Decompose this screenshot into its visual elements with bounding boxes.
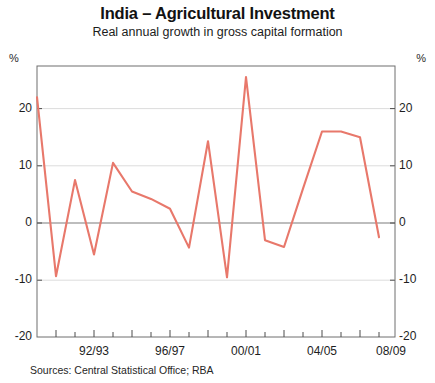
x-tick-label-92-93: 92/93 xyxy=(64,344,124,358)
y-tick-label-right-minus-20: -20 xyxy=(399,329,431,343)
x-tick-label-08-09: 08/09 xyxy=(361,344,421,358)
y-tick-label-20: 20 xyxy=(2,101,32,115)
x-tick-label-96-97: 96/97 xyxy=(140,344,200,358)
y-tick-label-right-0: 0 xyxy=(399,215,431,229)
x-tick-label-00-01: 00/01 xyxy=(216,344,276,358)
y-tick-label-right-minus-10: -10 xyxy=(399,272,431,286)
y-tick-label-right-20: 20 xyxy=(399,101,431,115)
chart-figure: India – Agricultural Investment Real ann… xyxy=(0,0,435,383)
y-tick-label-0: 0 xyxy=(2,215,32,229)
plot-area xyxy=(0,0,435,383)
x-tick-label-04-05: 04/05 xyxy=(292,344,352,358)
y-tick-label-10: 10 xyxy=(2,158,32,172)
y-tick-label-right-10: 10 xyxy=(399,158,431,172)
sources-note: Sources: Central Statistical Office; RBA xyxy=(30,364,214,376)
y-tick-label-minus-20: -20 xyxy=(2,329,32,343)
y-tick-label-minus-10: -10 xyxy=(2,272,32,286)
